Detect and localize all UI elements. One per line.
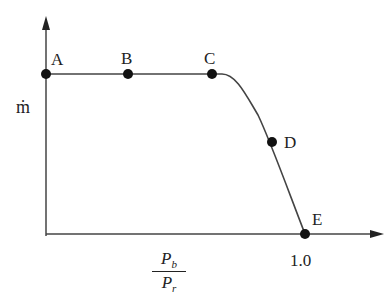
diagram-canvas (0, 0, 388, 296)
label-a: A (51, 51, 63, 68)
point-a (41, 69, 51, 79)
point-d (267, 137, 277, 147)
point-c (207, 69, 217, 79)
x-den-sub: r (172, 283, 176, 295)
x-num-sub: b (171, 258, 177, 270)
point-e (300, 229, 310, 239)
label-c: C (204, 50, 215, 67)
x-tick-label: 1.0 (290, 252, 311, 269)
flow-curve (46, 74, 305, 234)
y-axis-label: ṁ (16, 98, 30, 116)
x-axis-label: Pb Pr (152, 249, 186, 295)
label-d: D (284, 134, 296, 151)
y-axis-arrow-icon (42, 16, 50, 30)
x-den: P (162, 273, 172, 292)
x-num: P (161, 249, 171, 268)
x-axis-arrow-icon (370, 230, 384, 238)
point-b (123, 69, 133, 79)
label-e: E (312, 211, 322, 228)
label-b: B (121, 50, 132, 67)
